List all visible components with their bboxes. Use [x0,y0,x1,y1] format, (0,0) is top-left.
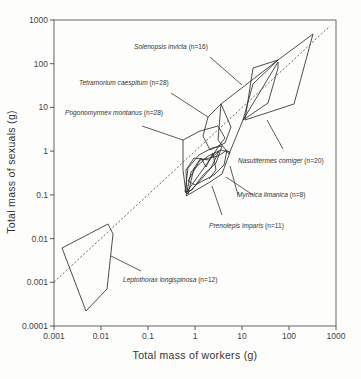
leader-solenopsis [210,57,242,85]
x-tick-label: 1 [193,331,198,341]
x-tick-label: 1000 [327,331,346,341]
reference-line-1to1 [54,26,330,282]
y-tick-label: 0.001 [27,277,49,287]
x-tick-label: 10 [237,331,247,341]
polygon-leptothorax [62,224,113,311]
y-tick-label: 10 [39,102,49,112]
y-tick-label: 0.01 [31,234,48,244]
y-axis-title: Total mass of sexuals (g) [5,110,17,234]
x-axis-title: Total mass of workers (g) [133,349,258,361]
polygon-nasutitermes [245,34,313,120]
leader-tetramorium [171,93,208,117]
label-prenolepis: Prenolepis imparis (n=11) [209,222,284,230]
label-tetramorium: Tetramorium caespitum (n=28) [79,79,169,87]
label-myrmica: Myrmica limanica (n=8) [237,191,305,199]
x-tick-label: 0.001 [43,331,65,341]
y-axis [50,20,54,326]
x-tick-label: 0.01 [93,331,110,341]
x-tick-label: 100 [282,331,296,341]
leader-leptothorax [111,256,141,271]
x-tick-label: 0.1 [142,331,154,341]
leader-prenolepis [212,186,222,215]
y-tick-label: 100 [34,59,48,69]
y-tick-label: 1000 [29,15,48,25]
leader-pogonomyrmex [142,126,183,140]
label-solenopsis: Solenopsis invicta (n=16) [134,43,208,51]
polygon-solenopsis [218,60,278,154]
polygon-tetramorium [203,104,231,150]
y-tick-label: 0.0001 [22,321,48,331]
label-nasutitermes: Nasutitermes corniger (n=20) [238,157,324,165]
chart-canvas: 1000 100 10 1 0.1 0.01 0.001 0.0001 0.00… [0,0,361,379]
leader-nasutitermes [267,120,283,149]
y-tick-label: 1 [43,146,48,156]
label-pogonomyrmex: Pogonomyrmex montanus (n=28) [65,109,163,117]
label-leptothorax: Leptothorax longispinosa (n=12) [123,276,217,284]
x-axis [54,326,336,330]
y-tick-label: 0.1 [36,190,48,200]
